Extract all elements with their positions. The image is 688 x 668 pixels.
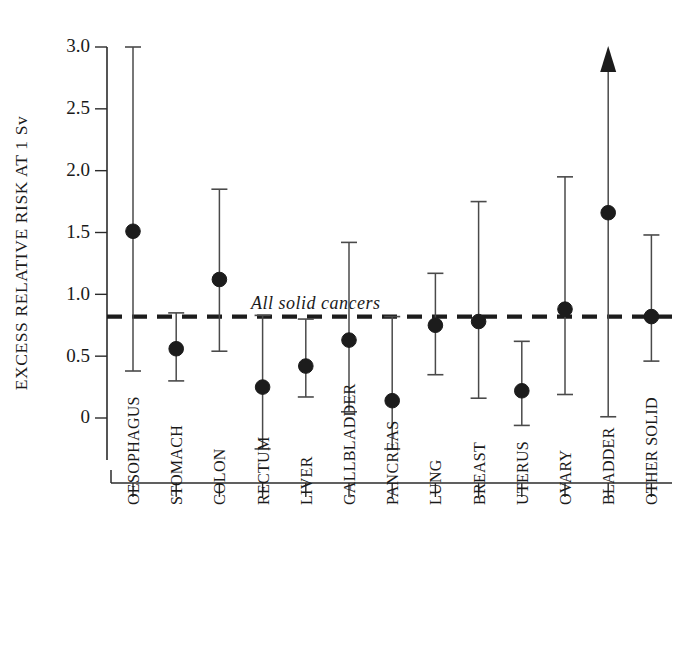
y-tick-label: 1.0 [66, 283, 90, 304]
data-point-marker [558, 302, 573, 317]
category-label: STOMACH [168, 425, 185, 505]
y-tick-label: 2.0 [66, 159, 90, 180]
category-label: BREAST [471, 442, 488, 505]
reference-line-label: All solid cancers [250, 293, 380, 313]
category-label: UTERUS [514, 441, 531, 505]
y-tick-label: 0 [81, 406, 91, 427]
upper-bound-arrow-icon [600, 46, 616, 72]
excess-relative-risk-chart: 00.51.01.52.02.53.0 EXCESS RELATIVE RISK… [0, 0, 688, 668]
category-label: BLADDER [600, 427, 617, 505]
category-label: LIVER [298, 456, 315, 505]
y-tick-label: 0.5 [66, 345, 90, 366]
data-point-group [298, 319, 314, 397]
data-point-group [600, 46, 616, 417]
category-label: OESOPHAGUS [125, 396, 142, 505]
data-point-marker [212, 272, 227, 287]
data-point-group [125, 47, 141, 371]
data-point-group [471, 202, 487, 399]
y-tick-label: 2.5 [66, 97, 90, 118]
category-label: RECTUM [255, 437, 272, 505]
data-point-marker [342, 333, 357, 348]
category-label: LUNG [427, 459, 444, 505]
data-point-group [255, 315, 271, 449]
data-point-group [643, 235, 659, 361]
data-point-marker [471, 314, 486, 329]
category-label: OTHER SOLID [643, 397, 660, 505]
chart-container: 00.51.01.52.02.53.0 EXCESS RELATIVE RISK… [0, 0, 688, 668]
data-point-group [557, 177, 573, 395]
y-axis-ticks: 00.51.01.52.02.53.0 [66, 35, 107, 427]
y-axis-title: EXCESS RELATIVE RISK AT 1 Sv [11, 116, 31, 391]
data-point-group [168, 313, 184, 381]
y-tick-label: 3.0 [66, 35, 90, 56]
data-point-marker [428, 318, 443, 333]
data-point-group [427, 273, 443, 374]
data-point-marker [385, 393, 400, 408]
data-point-marker [644, 309, 659, 324]
data-point-marker [255, 380, 270, 395]
data-point-marker [515, 383, 530, 398]
data-point-group [514, 341, 530, 425]
category-label: GALLBLADDER [341, 383, 358, 505]
data-point-marker [126, 224, 141, 239]
data-point-marker [169, 341, 184, 356]
data-point-group [211, 189, 227, 351]
category-label: PANCREAS [384, 420, 401, 505]
data-point-marker [299, 359, 314, 374]
y-tick-label: 1.5 [66, 221, 90, 242]
category-label: COLON [211, 448, 228, 505]
y-axis: 00.51.01.52.02.53.0 [66, 35, 107, 460]
category-label: OVARY [557, 449, 574, 505]
data-series [125, 46, 659, 449]
data-point-marker [601, 205, 616, 220]
